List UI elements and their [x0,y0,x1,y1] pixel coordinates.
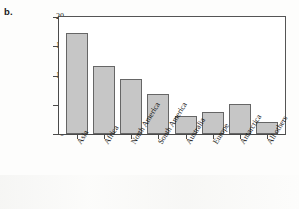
figure-panel: b. Area (millions of sq. miles) 0 5 10 1… [0,0,299,209]
bar-slot [92,17,116,134]
bar-slot [65,17,89,134]
bar-slot [201,17,225,134]
scan-noise [0,175,299,209]
bar [66,33,88,134]
panel-label: b. [4,6,13,17]
bar-slot [228,17,252,134]
bar-slot [119,17,143,134]
